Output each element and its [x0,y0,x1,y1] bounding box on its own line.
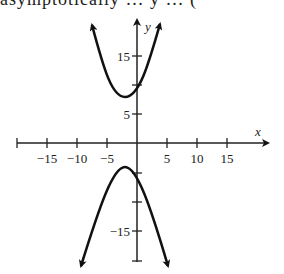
x-tick-label: 15 [221,151,234,166]
x-axis-label: x [254,124,261,139]
hyperbola-upper-branch [125,24,160,97]
hyperbola-lower-branch [125,167,168,266]
x-tick-label: −5 [100,151,114,166]
hyperbola-lower-branch [81,167,125,266]
hyperbola-graph: −15 −10 −5 5 10 15 15 5 −15 x y [0,0,284,274]
y-axis-label: y [143,19,151,34]
y-tick-label: 15 [117,49,130,64]
x-tick-label: −15 [37,151,57,166]
x-tick-label: 10 [191,151,204,166]
y-tick-label: 5 [124,107,131,122]
y-tick-label: −15 [110,224,130,239]
x-tick-label: −10 [67,151,87,166]
x-tick-label: 5 [164,151,171,166]
